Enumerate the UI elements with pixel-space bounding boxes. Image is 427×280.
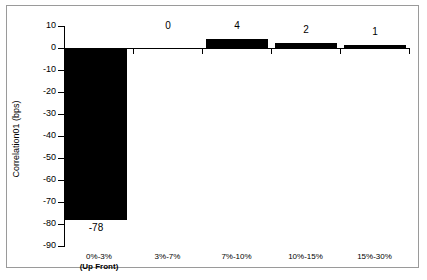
x-category-label-4: 15%-30% [340,252,409,262]
x-category-label-1: 3%-7% [133,252,202,262]
y-tick-mark [58,114,64,115]
x-category-label-3: 10%-15% [271,252,340,262]
x-category-label-1-main: 3%-7% [155,252,181,261]
y-tick-mark [58,158,64,159]
y-tick-mark [58,136,64,137]
y-tick-mark [58,70,64,71]
x-category-label-4-main: 15%-30% [357,252,392,261]
bar-value-label-0: -78 [65,222,127,233]
x-category-label-0-sub: (Up Front) [65,262,133,272]
bar-value-label-1: 0 [137,20,199,31]
x-tick-mark [271,48,272,54]
y-tick-mark [58,48,64,49]
x-category-label-2-main: 7%-10% [221,252,251,261]
bar-3 [275,43,337,48]
chart-figure: 10 0 -10 -20 -30 -40 -50 -60 -70 -80 -90… [6,5,419,268]
y-axis-title-text: Correlation01 (bps) [11,64,21,214]
y-tick-mark [58,246,64,247]
y-tick-label: -80 [8,219,56,228]
x-category-label-2: 7%-10% [202,252,271,262]
x-tick-mark [340,48,341,54]
x-category-label-0-main: 0%-3% [86,252,112,261]
y-tick-mark [58,26,64,27]
bar-value-label-4: 1 [344,26,406,37]
x-category-label-0: 0%-3% (Up Front) [65,252,133,272]
bar-0 [65,49,127,220]
plot-area: 10 0 -10 -20 -30 -40 -50 -60 -70 -80 -90… [7,6,420,269]
y-tick-mark [58,92,64,93]
y-tick-mark [58,202,64,203]
x-tick-mark [133,48,134,54]
bar-value-label-3: 2 [275,24,337,35]
x-category-label-3-main: 10%-15% [288,252,323,261]
y-axis-title: Correlation01 (bps) [11,0,21,64]
bar-4 [344,45,406,48]
y-tick-mark [58,224,64,225]
y-tick-label: -90 [8,241,56,250]
x-tick-mark [409,48,410,54]
bar-value-label-2: 4 [206,20,268,31]
x-tick-mark [202,48,203,54]
bar-2 [206,39,268,48]
y-tick-mark [58,180,64,181]
